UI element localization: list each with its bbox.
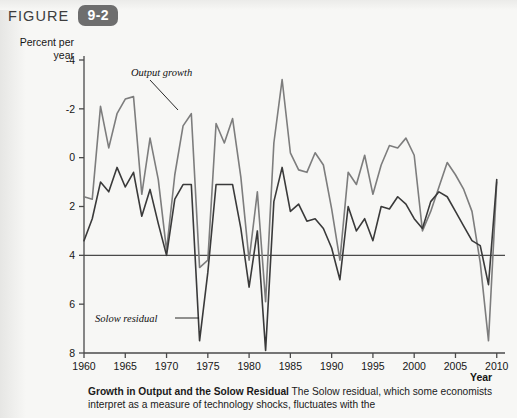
solow-residual-annotation-label: Solow residual [95,313,157,324]
chart-axes [84,56,505,353]
y-tick-label: 0 [69,151,75,163]
x-tick-label: 1985 [279,360,303,372]
chart-series [84,80,497,351]
x-tick-label: 1995 [361,360,385,372]
output-growth-leader-line [150,80,178,110]
x-tick-label: 1990 [320,360,344,372]
y-tick-label: 4 [69,249,75,261]
y-tick-label: 6 [69,298,75,310]
output-growth-annotation-label: Output growth [131,67,192,78]
x-tick-label: 1975 [196,360,220,372]
chart-annotations: Output growth Solow residual [95,67,199,324]
x-tick-label: 1970 [155,360,179,372]
y-tick-label: -2 [66,103,75,115]
x-tick-label: 1980 [237,360,261,372]
x-tick-label: 1965 [114,360,138,372]
solow-residual-chart: 86420-2-4 196019651970197519801985199019… [0,0,517,418]
x-tick-label: 2010 [485,360,509,372]
x-axis-ticks: 1960196519701975198019851990199520002005… [72,353,508,372]
x-tick-label: 2000 [403,360,427,372]
y-tick-label: 2 [69,200,75,212]
x-tick-label: 2005 [444,360,468,372]
y-tick-label: -4 [66,54,75,66]
x-tick-label: 1960 [72,360,96,372]
y-tick-label: 8 [69,347,75,359]
figure-caption: Growth in Output and the Solow Residual … [88,385,512,412]
y-axis-ticks: 86420-2-4 [66,54,84,359]
caption-title: Growth in Output and the Solow Residual [88,386,289,397]
